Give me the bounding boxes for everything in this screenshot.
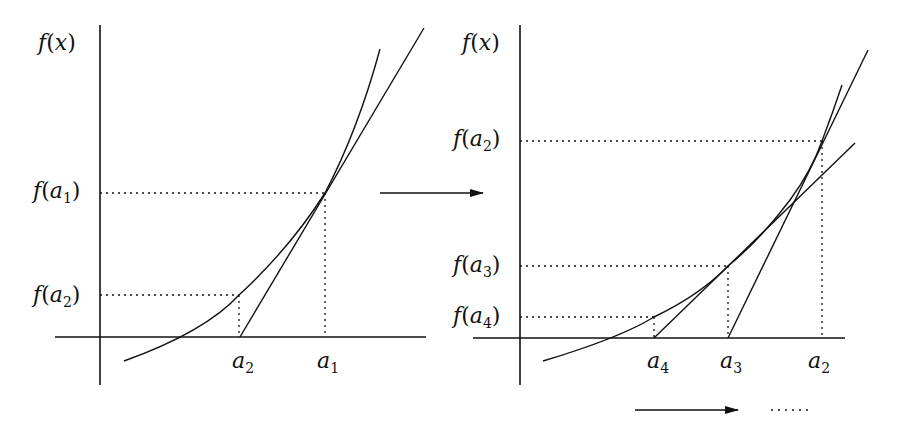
right-label-fa3: f(a3) xyxy=(451,252,500,280)
right-function-curve xyxy=(543,85,842,361)
right-y-axis-label: f(x) xyxy=(460,30,500,55)
left-label-fa1: f(a1) xyxy=(31,178,80,206)
right-label-fa2: f(a2) xyxy=(451,126,500,154)
left-tangent-line xyxy=(240,28,424,337)
left-label-fa2: f(a2) xyxy=(31,282,80,310)
left-label-a2: a2 xyxy=(232,348,254,376)
right-label-a2: a2 xyxy=(808,348,830,376)
right-label-a3: a3 xyxy=(720,348,742,376)
right-panel xyxy=(473,25,868,385)
right-label-a4: a4 xyxy=(647,348,669,376)
right-label-fa4: f(a4) xyxy=(451,303,500,331)
left-y-axis-label: f(x) xyxy=(36,30,76,55)
right-tangent-at-a2 xyxy=(728,50,868,338)
left-panel xyxy=(55,25,426,385)
left-label-a1: a1 xyxy=(317,348,339,376)
left-function-curve xyxy=(124,49,380,361)
right-tangent-at-a3 xyxy=(654,143,855,338)
newton-method-diagram: f(x) f(a1) f(a2) a2 a1 f(x) f(a2) f(a3) … xyxy=(0,0,900,435)
